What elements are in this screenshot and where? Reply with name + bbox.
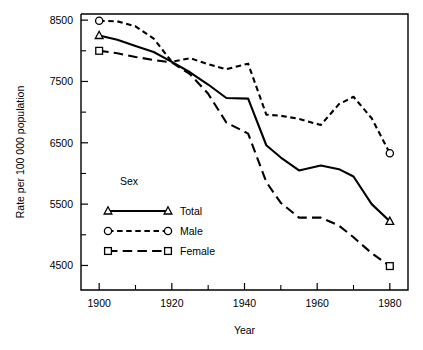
x-tick-label: 1960 bbox=[305, 297, 329, 309]
tick-marks bbox=[81, 20, 390, 290]
endpoint-marker-male bbox=[386, 150, 393, 157]
endpoint-marker-male bbox=[96, 17, 103, 24]
legend-square-icon bbox=[105, 248, 112, 255]
data-series bbox=[99, 21, 390, 266]
legend-square-icon bbox=[165, 248, 172, 255]
series-line-male bbox=[99, 21, 390, 153]
y-tick-label: 8500 bbox=[50, 14, 74, 26]
y-tick-label: 4500 bbox=[50, 259, 74, 271]
series-line-female bbox=[99, 51, 390, 266]
x-tick-label: 1940 bbox=[233, 297, 257, 309]
series-line-total bbox=[99, 35, 390, 221]
x-axis-title: Year bbox=[234, 324, 256, 336]
x-tick-label: 1920 bbox=[160, 297, 184, 309]
chart-container: 4500550065007500850019001920194019601980… bbox=[0, 0, 423, 350]
legend-circle-icon bbox=[104, 227, 111, 234]
y-tick-label: 7500 bbox=[50, 75, 74, 87]
tick-labels: 4500550065007500850019001920194019601980 bbox=[50, 14, 402, 309]
legend-label-female: Female bbox=[180, 245, 215, 257]
line-chart: 4500550065007500850019001920194019601980… bbox=[0, 0, 423, 350]
endpoint-marker-total bbox=[95, 31, 103, 38]
legend-circle-icon bbox=[164, 227, 171, 234]
legend-title: Sex bbox=[120, 175, 139, 187]
y-axis-title: Rate per 100 000 population bbox=[14, 86, 26, 219]
y-tick-label: 6500 bbox=[50, 137, 74, 149]
x-tick-label: 1980 bbox=[378, 297, 402, 309]
legend-label-total: Total bbox=[180, 205, 202, 217]
legend-label-male: Male bbox=[180, 225, 203, 237]
x-tick-label: 1900 bbox=[87, 297, 111, 309]
legend: SexTotalMaleFemale bbox=[104, 175, 215, 257]
endpoint-marker-female bbox=[386, 263, 393, 270]
y-tick-label: 5500 bbox=[50, 198, 74, 210]
endpoint-marker-female bbox=[96, 47, 103, 54]
